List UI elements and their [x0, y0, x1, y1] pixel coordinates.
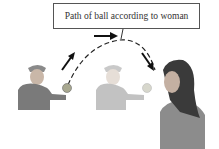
- boy-figure-throwing: [18, 65, 72, 110]
- arrow-up-icon: [62, 52, 75, 70]
- boy-figure-faded: [96, 65, 152, 110]
- trajectory-label-box: Path of ball according to woman: [53, 3, 200, 29]
- woman-figure: [160, 60, 205, 149]
- ball-icon: [63, 84, 72, 93]
- trajectory-label-text: Path of ball according to woman: [65, 11, 189, 21]
- diagram-canvas: Path of ball according to woman: [0, 0, 219, 149]
- arrow-right-icon: [94, 32, 118, 40]
- label-pointer-line: [121, 29, 123, 39]
